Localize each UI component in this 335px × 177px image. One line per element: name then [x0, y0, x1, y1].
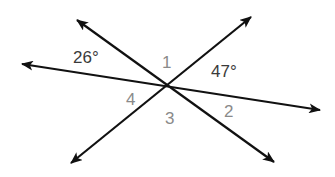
line-c: [71, 17, 251, 163]
angle-label-47-degrees: 47°: [211, 62, 237, 81]
diagram-canvas: 26° 1 47° 4 3 2: [0, 0, 335, 177]
angle-label-1: 1: [162, 53, 171, 72]
angle-label-26-degrees: 26°: [73, 48, 99, 67]
line-b: [77, 20, 274, 162]
angle-label-4: 4: [126, 90, 135, 109]
angle-diagram: 26° 1 47° 4 3 2: [0, 0, 335, 177]
angle-label-3: 3: [165, 109, 174, 128]
angle-label-2: 2: [224, 102, 233, 121]
